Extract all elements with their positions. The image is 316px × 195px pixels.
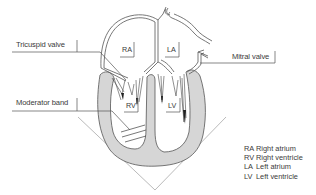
legend-abbr: LV xyxy=(244,172,256,181)
legend-meaning: Left atrium xyxy=(256,162,291,171)
legend: RA Right atrium RV Right ventricle LA Le… xyxy=(244,144,303,181)
atria-outline xyxy=(101,7,212,81)
chamber-label-la: LA xyxy=(167,45,176,54)
chamber-label-ra: RA xyxy=(122,45,132,54)
legend-abbr: LA xyxy=(244,162,256,171)
moderator-band xyxy=(121,125,146,142)
legend-meaning: Right atrium xyxy=(256,144,296,153)
ventricular-myocardium xyxy=(98,70,206,166)
legend-abbr: RV xyxy=(244,153,256,162)
legend-item: RV Right ventricle xyxy=(244,153,303,162)
legend-item: LV Left ventricle xyxy=(244,172,303,181)
legend-meaning: Left ventricle xyxy=(256,172,298,181)
legend-abbr: RA xyxy=(244,144,256,153)
label-moderator-band: Moderator band xyxy=(16,98,68,107)
label-mitral-valve: Mitral valve xyxy=(232,52,269,61)
label-tricuspid-valve: Tricuspid valve xyxy=(16,40,65,49)
legend-item: LA Left atrium xyxy=(244,162,303,171)
chamber-label-lv: LV xyxy=(168,101,176,110)
chamber-label-rv: RV xyxy=(126,101,136,110)
legend-meaning: Right ventricle xyxy=(256,153,303,162)
legend-item: RA Right atrium xyxy=(244,144,303,153)
